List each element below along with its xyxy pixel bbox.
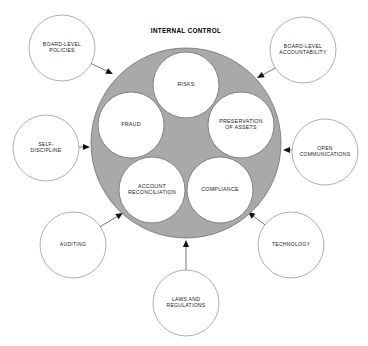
diagram-canvas: RISKSPRESERVATIONOF ASSETSCOMPLIANCEACCO… — [0, 0, 368, 346]
inner-circle-account-reconciliation: ACCOUNTRECONCILIATION — [119, 157, 185, 223]
inner-circle-label-compliance: COMPLIANCE — [201, 186, 239, 192]
satellite-open-communications: OPENCOMMUNICATIONS — [292, 119, 358, 185]
satellite-board-level-policies: BOARD-LEVELPOLICIES — [29, 15, 95, 81]
arrow-head-self-discipline — [83, 144, 90, 150]
satellite-label-laws-and-regulations: LAWS ANDREGULATIONS — [167, 296, 206, 308]
inner-circle-risks: RISKS — [153, 52, 219, 118]
connector-line-auditing — [98, 216, 118, 228]
arrow-head-laws-and-regulations — [183, 240, 189, 247]
inner-circle-label-fraud: FRAUD — [121, 121, 141, 127]
arrow-head-auditing — [115, 213, 123, 219]
satellite-label-auditing: AUDITING — [60, 241, 86, 247]
arrow-head-open-communications — [283, 147, 290, 153]
inner-circle-compliance: COMPLIANCE — [187, 157, 253, 223]
inner-circle-label-preservation-of-assets: PRESERVATIONOF ASSETS — [219, 118, 263, 130]
satellite-laws-and-regulations: LAWS ANDREGULATIONS — [153, 270, 219, 336]
satellite-self-discipline: SELF-DISCIPLINE — [13, 115, 79, 181]
satellite-auditing: AUDITING — [40, 212, 106, 278]
satellite-technology: TECHNOLOGY — [258, 212, 324, 278]
satellite-label-technology: TECHNOLOGY — [272, 241, 311, 247]
satellite-label-board-level-accountability: BOARD-LEVELACCOUNTABILITY — [279, 43, 327, 55]
inner-circle-preservation-of-assets: PRESERVATIONOF ASSETS — [208, 92, 274, 158]
arrow-head-board-level-accountability — [257, 72, 265, 78]
page-title: INTERNAL CONTROL — [151, 27, 221, 34]
inner-circle-label-risks: RISKS — [177, 81, 194, 87]
inner-circle-fraud: FRAUD — [98, 92, 164, 158]
internal-control-diagram: RISKSPRESERVATIONOF ASSETSCOMPLIANCEACCO… — [0, 0, 368, 346]
satellite-board-level-accountability: BOARD-LEVELACCOUNTABILITY — [270, 17, 336, 83]
